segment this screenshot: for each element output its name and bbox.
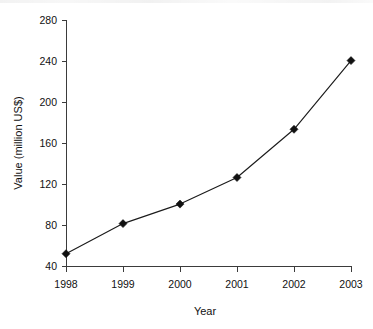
y-tick-label-280: 280 — [39, 14, 57, 26]
y-tick-label-80: 80 — [45, 219, 57, 231]
data-point-1998 — [62, 250, 70, 258]
x-axis-title: Year — [194, 305, 217, 317]
y-tick-label-240: 240 — [39, 55, 57, 67]
y-tick-label-200: 200 — [39, 96, 57, 108]
x-tick-label-2003: 2003 — [339, 278, 363, 290]
x-tick-label-2000: 2000 — [168, 278, 192, 290]
y-tick-label-120: 120 — [39, 178, 57, 190]
series-line-value — [66, 61, 351, 254]
x-axis-ticks — [67, 267, 352, 272]
data-point-1999 — [119, 220, 127, 228]
x-axis-tick-labels: 1998 1999 2000 2001 2002 2003 — [54, 278, 363, 290]
data-series-value — [62, 57, 355, 258]
x-tick-label-1998: 1998 — [54, 278, 78, 290]
y-tick-label-160: 160 — [39, 137, 57, 149]
data-point-2000 — [176, 200, 184, 208]
x-tick-label-1999: 1999 — [111, 278, 135, 290]
y-axis-tick-labels: 40 80 120 160 200 240 280 — [39, 14, 57, 272]
line-chart-figure: 40 80 120 160 200 240 280 1998 1999 2000… — [0, 0, 373, 329]
x-tick-label-2001: 2001 — [225, 278, 249, 290]
y-tick-label-40: 40 — [45, 260, 57, 272]
chart-canvas: 40 80 120 160 200 240 280 1998 1999 2000… — [0, 0, 373, 329]
x-tick-label-2002: 2002 — [282, 278, 306, 290]
y-axis-title: Value (million US$) — [12, 96, 24, 189]
y-axis-ticks — [62, 21, 67, 267]
